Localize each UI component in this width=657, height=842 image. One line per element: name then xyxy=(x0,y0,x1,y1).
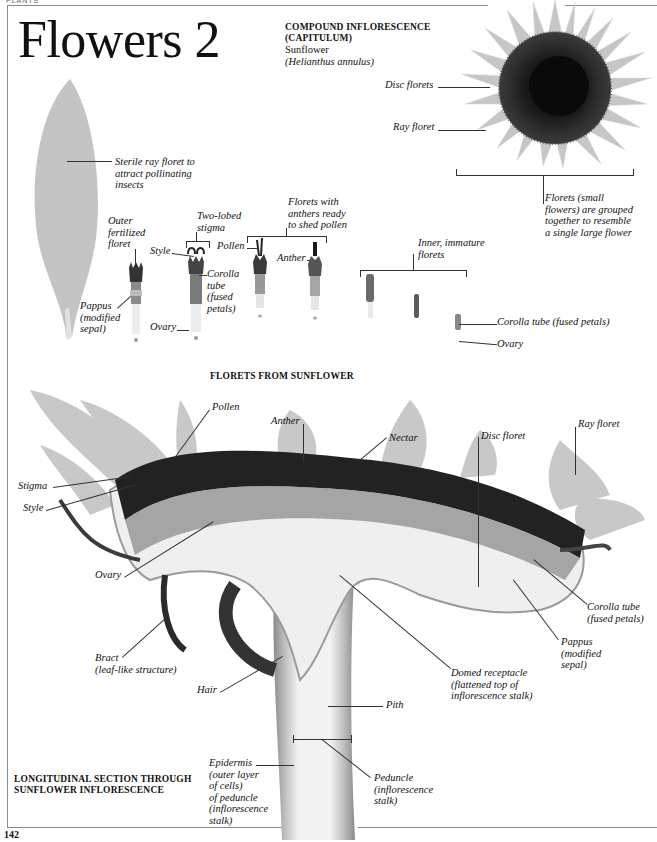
leader-pith xyxy=(328,706,383,707)
label-ovary-section: Ovary xyxy=(95,569,121,581)
label-disc-florets: Disc florets xyxy=(385,79,433,91)
label-pith: Pith xyxy=(386,699,404,711)
inner-florets-image xyxy=(360,270,470,350)
peduncle-measure-left xyxy=(293,735,294,743)
sunflower-head-image xyxy=(455,0,655,168)
leader-disc-florets xyxy=(438,87,490,88)
label-style-florets: Style xyxy=(150,245,170,257)
leader-ray-floret-section xyxy=(575,427,576,475)
label-epidermis: Epidermis (outer layer of cells) of pedu… xyxy=(209,757,268,826)
leader-corolla-tube-inner xyxy=(459,324,497,325)
label-stigma-section: Stigma xyxy=(18,480,47,492)
label-bract-section: Bract (leaf-like structure) xyxy=(95,652,177,675)
frame-top-left xyxy=(8,5,188,6)
label-two-lobed-stigma: Two-lobed stigma xyxy=(197,210,241,233)
label-disc-floret-section: Disc floret xyxy=(481,430,525,442)
page-title: Flowers 2 xyxy=(18,14,220,66)
label-hair-section: Hair xyxy=(197,684,217,696)
leader-ray-floret xyxy=(438,130,486,131)
latin-name: (Helianthus annulus) xyxy=(285,56,431,68)
capitulum-heading: COMPOUND INFLORESCENCE (CAPITULUM) Sunfl… xyxy=(285,22,431,67)
label-pappus-florets: Pappus (modified sepal) xyxy=(80,300,120,335)
label-domed-receptacle: Domed receptacle (flattened top of inflo… xyxy=(451,667,533,702)
pollen-floret-image xyxy=(250,238,270,318)
leader-anther-section xyxy=(303,424,304,462)
frame-left xyxy=(7,5,8,827)
bracket-florets-grouped xyxy=(456,169,634,176)
leader-epidermis xyxy=(256,765,294,766)
label-anther-section: Anther xyxy=(271,415,300,427)
label-corolla-florets: Corolla tube (fused petals) xyxy=(207,268,239,314)
label-ovary-florets: Ovary xyxy=(150,321,176,333)
leader-florets-anthers xyxy=(286,228,287,236)
caption-longitudinal-section: LONGITUDINAL SECTION THROUGH SUNFLOWER I… xyxy=(14,774,192,796)
label-ray-floret: Ray floret xyxy=(393,121,434,133)
label-nectar-section: Nectar xyxy=(389,432,418,444)
peduncle-measure-right xyxy=(351,735,352,743)
label-corolla-section: Corolla tube (fused petals) xyxy=(587,601,644,624)
stigma-floret-image xyxy=(183,244,209,344)
label-florets-anthers: Florets with anthers ready to shed polle… xyxy=(288,196,347,231)
capitulum-heading-line2: (CAPITULUM) xyxy=(285,33,431,44)
page-number: 142 xyxy=(4,829,19,840)
label-pollen-florets: Pollen xyxy=(217,240,244,252)
label-inner-florets: Inner, immature florets xyxy=(418,237,485,260)
capitulum-heading-line1: COMPOUND INFLORESCENCE xyxy=(285,22,431,33)
leader-disc-floret-section xyxy=(478,437,479,587)
label-ovary-inner: Ovary xyxy=(497,338,523,350)
label-florets-grouped: Florets (small flowers) are grouped toge… xyxy=(545,192,633,238)
longitudinal-section-image xyxy=(20,380,657,840)
label-style-section: Style xyxy=(23,502,43,514)
label-pappus-section: Pappus (modified sepal) xyxy=(561,636,601,671)
outer-floret-image xyxy=(127,262,145,344)
running-head: PLANTS xyxy=(6,0,39,4)
leader-sterile-ray xyxy=(67,161,112,162)
leader-inner-florets xyxy=(413,254,414,270)
leader-florets-grouped xyxy=(543,176,544,204)
label-pollen-section: Pollen xyxy=(212,401,239,413)
anther-floret-image xyxy=(305,242,325,322)
label-outer-floret: Outer fertilized floret xyxy=(108,215,145,250)
common-name: Sunflower xyxy=(285,44,431,56)
label-anther-florets: Anther xyxy=(277,252,306,264)
frame-top-mid xyxy=(188,5,488,6)
label-peduncle: Peduncle (inflorescence stalk) xyxy=(374,772,433,807)
leader-corolla-florets xyxy=(199,275,207,276)
label-ray-floret-section: Ray floret xyxy=(578,418,619,430)
label-sterile-ray: Sterile ray floret to attract pollinatin… xyxy=(115,156,195,191)
label-corolla-tube-inner: Corolla tube (fused petals) xyxy=(497,316,609,328)
leader-ovary-florets xyxy=(177,330,189,331)
